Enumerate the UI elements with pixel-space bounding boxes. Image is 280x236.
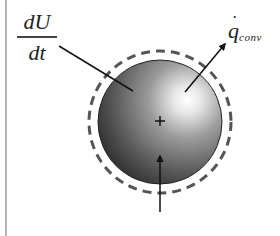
convection-label: ·qconv (228, 20, 280, 43)
fraction-bar (17, 36, 57, 38)
fraction-numerator: dU (17, 10, 57, 34)
fraction-denominator: dt (17, 41, 57, 65)
time-derivative-dot: · (157, 234, 162, 236)
time-derivative-dot: · (232, 10, 237, 26)
internal-energy-label: dU dt (17, 10, 57, 65)
energy-balance-diagram: dU dt ·qconv ·qlaser (0, 0, 280, 236)
internal-energy-leader-line (59, 46, 133, 91)
